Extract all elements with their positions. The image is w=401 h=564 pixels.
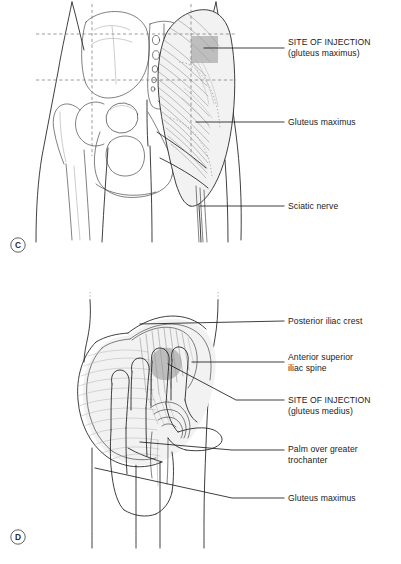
- panel-letter-c: C: [11, 238, 25, 252]
- label-site-of-injection-medius-line2: (gluteus medius): [288, 406, 353, 416]
- anatomy-figure: SITE OF INJECTION (gluteus maximus) Glut…: [0, 0, 401, 564]
- label-posterior-iliac-crest: Posterior iliac crest: [288, 316, 363, 326]
- label-anterior-superior-iliac-spine-line2: iliac spine: [288, 363, 327, 373]
- panel-letter-d-text: D: [15, 532, 21, 542]
- label-gluteus-maximus-d: Gluteus maximus: [288, 493, 356, 503]
- panel-d-top-guides: [90, 292, 218, 302]
- figure-root: SITE OF INJECTION (gluteus maximus) Glut…: [0, 0, 401, 564]
- panel-d: Posterior iliac crest Anterior superior …: [11, 292, 371, 548]
- panel-c-labels: SITE OF INJECTION (gluteus maximus) Glut…: [288, 37, 371, 211]
- label-gluteus-maximus-c: Gluteus maximus: [288, 117, 356, 127]
- panel-c-injection-site: [191, 36, 218, 63]
- label-palm-over-greater-trochanter-line1: Palm over greater: [288, 444, 358, 454]
- panel-d-labels: Posterior iliac crest Anterior superior …: [288, 316, 371, 503]
- label-site-of-injection-maximus-line1: SITE OF INJECTION: [288, 37, 371, 47]
- panel-c: SITE OF INJECTION (gluteus maximus) Glut…: [11, 2, 371, 252]
- label-site-of-injection-medius-line1: SITE OF INJECTION: [288, 395, 371, 405]
- panel-letter-c-text: C: [15, 240, 21, 250]
- panel-letter-d: D: [11, 530, 25, 544]
- label-anterior-superior-iliac-spine-line1: Anterior superior: [288, 352, 353, 362]
- label-sciatic-nerve: Sciatic nerve: [288, 201, 338, 211]
- label-palm-over-greater-trochanter-line2: trochanter: [288, 455, 328, 465]
- label-site-of-injection-maximus-line2: (gluteus maximus): [288, 48, 360, 58]
